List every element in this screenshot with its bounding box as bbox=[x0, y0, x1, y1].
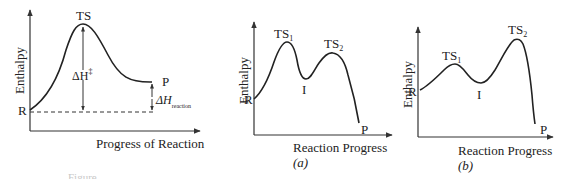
x-axis-label: Reaction Progress bbox=[293, 140, 387, 155]
reactant-label: R bbox=[244, 92, 253, 107]
x-axis-label: Progress of Reaction bbox=[96, 136, 205, 151]
ts1-label: TS1 bbox=[274, 26, 293, 43]
product-label: P bbox=[162, 74, 169, 89]
energy-curve bbox=[420, 39, 535, 124]
intermediate-label: I bbox=[477, 87, 481, 102]
reactant-label: R bbox=[18, 103, 27, 118]
ts1-label: TS1 bbox=[442, 48, 461, 65]
product-label: P bbox=[540, 122, 547, 137]
transition-state-label: TS bbox=[76, 8, 91, 23]
energy-curve bbox=[254, 42, 359, 123]
x-axis-label: Reaction Progress bbox=[458, 143, 552, 158]
figure-caption-partial: Figure bbox=[68, 171, 97, 179]
product-label: P bbox=[361, 122, 368, 137]
y-axis-label: Enthalpy bbox=[12, 47, 27, 94]
ts2-label: TS2 bbox=[508, 22, 527, 39]
diagram-b: Enthalpy Reaction Progress (b) R TS1 I T… bbox=[400, 22, 553, 173]
single-step-diagram: Enthalpy Progress of Reaction R TS P ΔH‡… bbox=[12, 8, 205, 151]
reaction-enthalpy-label: ΔHreaction bbox=[155, 93, 191, 109]
caption-b: (b) bbox=[458, 158, 473, 173]
caption-a: (a) bbox=[293, 155, 308, 170]
diagram-a: Enthalpy Reaction Progress (a) R TS1 I T… bbox=[236, 22, 392, 170]
ts2-label: TS2 bbox=[324, 36, 343, 53]
energy-diagrams: Enthalpy Progress of Reaction R TS P ΔH‡… bbox=[0, 0, 561, 179]
intermediate-label: I bbox=[302, 82, 306, 97]
reactant-label: R bbox=[408, 84, 417, 99]
activation-enthalpy-label: ΔH‡ bbox=[72, 67, 92, 83]
